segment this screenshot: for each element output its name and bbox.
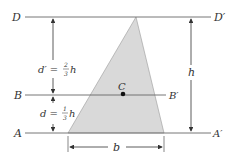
label-b: b [113,141,120,154]
triangle-shape [68,17,164,133]
label-d-prime-h: h [70,64,76,75]
label-D-prime: D′ [213,11,226,24]
frac-2-3-den: 3 [64,70,68,77]
label-C: C [118,81,126,92]
label-d-eq: d = [40,108,58,119]
frac-1-3-den: 3 [63,114,67,121]
frac-2-3-num: 2 [63,61,68,68]
centroid-point [121,92,126,97]
label-d-prime-eq: d′ = [38,64,58,75]
label-A: A [13,127,22,140]
label-h: h [188,66,195,79]
label-B-prime: B′ [168,90,179,101]
label-A-prime: A′ [212,128,223,139]
label-d-h: h [69,108,75,119]
label-B: B [13,89,22,102]
label-D: D [11,11,21,24]
frac-1-3-num: 1 [63,105,67,112]
triangle-centroid-diagram: D D′ B B′ A A′ C h b d′ = 2 3 h d = 1 3 … [0,0,235,156]
